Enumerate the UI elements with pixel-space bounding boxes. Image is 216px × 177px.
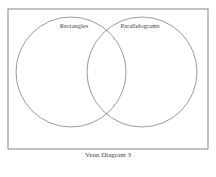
diagram-caption: Venn Diagram 3	[0, 151, 216, 159]
set-label-parallelograms: Parallelograms	[121, 22, 160, 29]
set-label-rectangles: Rectangles	[60, 22, 89, 29]
set-circle-rectangles	[16, 17, 126, 127]
set-circle-parallelograms	[87, 17, 197, 127]
universe-frame	[8, 9, 208, 149]
